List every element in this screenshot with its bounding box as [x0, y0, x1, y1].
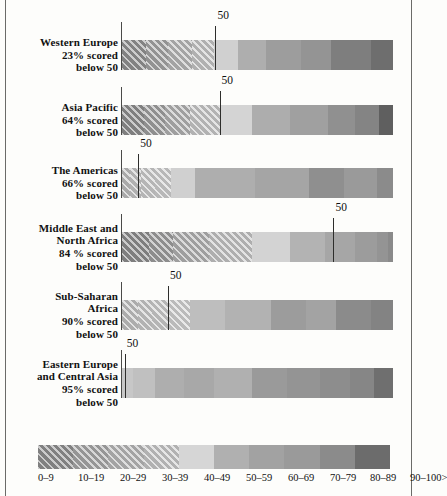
row-label-asia-pacific: Asia Pacific64% scoredbelow 50	[8, 101, 118, 139]
band-segment	[184, 368, 214, 398]
row-label-line: 23% scored	[8, 49, 118, 62]
band-segment	[336, 300, 371, 330]
legend-label-row: 0–910–1920–2930–3940–4950–5960–6970–7980…	[20, 472, 398, 490]
band-segment	[306, 300, 336, 330]
row-label-line: 84 % scored	[8, 247, 118, 260]
score-50-tick-label: 50	[222, 74, 234, 86]
band-segment	[209, 232, 252, 262]
legend-label: 70–79	[330, 472, 356, 483]
band-segment	[331, 40, 372, 70]
legend-label: 90–100>	[410, 472, 447, 483]
band-segment	[252, 368, 287, 398]
band-segment	[301, 40, 331, 70]
row-label-line: Africa	[8, 302, 118, 315]
score-50-tick-label: 50	[217, 9, 229, 21]
row-label-line: 95% scored	[8, 383, 118, 396]
row-label-line: below 50	[8, 260, 118, 273]
band-segment	[138, 300, 152, 330]
band-segment	[252, 105, 290, 135]
row-label-line: Sub-Saharan	[8, 290, 118, 303]
band-segment	[290, 232, 325, 262]
distribution-bar-the-americas	[122, 168, 393, 198]
band-segment	[152, 300, 168, 330]
band-segment	[266, 40, 301, 70]
band-segment	[252, 232, 290, 262]
band-segment	[179, 445, 214, 469]
band-segment	[155, 168, 171, 198]
band-segment	[328, 105, 355, 135]
row-label-line: Eastern Europe	[8, 358, 118, 371]
score-50-tick	[220, 91, 221, 135]
band-segment	[325, 232, 355, 262]
row-label-line: Western Europe	[8, 36, 118, 49]
legend-label: 10–19	[78, 472, 104, 483]
band-segment	[144, 445, 179, 469]
band-segment	[108, 445, 143, 469]
band-segment	[214, 368, 252, 398]
row-label-line: and Central Asia	[8, 370, 118, 383]
band-segment	[355, 232, 377, 262]
row-label-sub-saharan-africa: Sub-SaharanAfrica90% scoredbelow 50	[8, 290, 118, 340]
band-segment	[171, 168, 195, 198]
band-segment	[355, 445, 390, 469]
band-segment	[122, 300, 138, 330]
row-label-line: below 50	[8, 189, 118, 202]
band-segment	[122, 105, 144, 135]
row-label-line: Asia Pacific	[8, 101, 118, 114]
row-label-middle-east-and-north-africa: Middle East andNorth Africa84 % scoredbe…	[8, 222, 118, 272]
distribution-bar-eastern-europe-and-central-asia	[122, 368, 393, 398]
band-segment	[122, 168, 130, 198]
legend-label: 40–49	[204, 472, 230, 483]
band-segment	[255, 168, 309, 198]
band-segment	[355, 105, 379, 135]
band-segment	[38, 445, 73, 469]
band-segment	[168, 40, 192, 70]
band-segment	[214, 445, 249, 469]
row-label-western-europe: Western Europe23% scoredbelow 50	[8, 36, 118, 74]
distribution-bar-western-europe	[122, 40, 393, 70]
row-label-the-americas: The Americas66% scoredbelow 50	[8, 164, 118, 202]
row-label-eastern-europe-and-central-asia: Eastern Europeand Central Asia95% scored…	[8, 358, 118, 408]
band-segment	[133, 368, 155, 398]
score-50-tick	[125, 354, 126, 398]
legend-label: 80–89	[370, 472, 396, 483]
band-segment	[350, 368, 374, 398]
band-segment	[122, 368, 133, 398]
legend-label: 50–59	[246, 472, 272, 483]
band-segment	[146, 40, 168, 70]
band-segment	[225, 300, 271, 330]
band-segment	[374, 368, 393, 398]
band-segment	[388, 232, 393, 262]
legend-label: 60–69	[288, 472, 314, 483]
band-segment	[290, 105, 328, 135]
score-50-tick-label: 50	[140, 137, 152, 149]
row-label-line: below 50	[8, 328, 118, 341]
distribution-bar-sub-saharan-africa	[122, 300, 393, 330]
band-segment	[165, 105, 189, 135]
band-segment	[379, 105, 393, 135]
band-segment	[371, 300, 393, 330]
score-50-tick-label: 50	[127, 337, 139, 349]
row-label-line: below 50	[8, 396, 118, 409]
band-segment	[284, 445, 319, 469]
legend-label: 20–29	[120, 472, 146, 483]
band-segment	[287, 368, 320, 398]
score-50-tick	[138, 154, 139, 198]
row-label-line: North Africa	[8, 234, 118, 247]
band-segment	[73, 445, 108, 469]
band-segment	[320, 445, 355, 469]
band-segment	[371, 40, 393, 70]
band-segment	[155, 368, 185, 398]
score-50-tick-label: 50	[335, 201, 347, 213]
score-50-tick	[215, 26, 216, 70]
band-segment	[192, 40, 214, 70]
band-segment	[238, 40, 265, 70]
score-50-tick	[168, 286, 169, 330]
band-segment	[377, 168, 393, 198]
row-label-line: 90% scored	[8, 315, 118, 328]
band-segment	[168, 300, 190, 330]
band-segment	[320, 368, 350, 398]
band-segment	[195, 168, 255, 198]
distribution-bar-asia-pacific	[122, 105, 393, 135]
